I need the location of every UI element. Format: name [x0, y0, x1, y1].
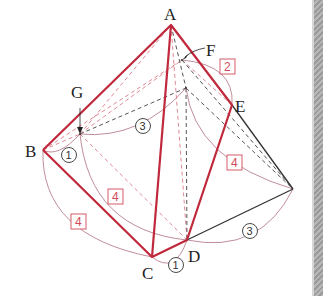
svg-text:4: 4: [231, 156, 238, 170]
circled-number-cd: 1: [169, 258, 184, 273]
circled-number-bg: 1: [62, 148, 77, 163]
boxed-number-g-d: 4: [108, 189, 123, 204]
label-a: A: [164, 5, 177, 24]
svg-text:2: 2: [224, 60, 231, 74]
point-g-dot: [79, 133, 81, 135]
dashed-gray-lines: [80, 25, 293, 240]
label-g: G: [71, 83, 83, 102]
point-f-dot: [181, 59, 183, 61]
svg-text:1: 1: [173, 259, 179, 271]
svg-text:1: 1: [66, 149, 72, 161]
svg-text:4: 4: [112, 190, 119, 204]
boxed-number-right-edge: 4: [227, 155, 242, 170]
boxed-number-b-c: 4: [71, 214, 86, 229]
circled-number-d-right: 3: [243, 224, 258, 239]
arrow-head-f: [182, 54, 188, 60]
svg-text:4: 4: [75, 215, 82, 229]
label-d: D: [188, 247, 200, 266]
label-f: F: [206, 41, 215, 60]
label-c: C: [142, 264, 153, 283]
pyramid-diagram: A B C D E F G 1 3 1 3 2 4 4 4: [0, 0, 323, 296]
hidden-vertex-dot: [185, 87, 187, 89]
label-e: E: [235, 97, 245, 116]
boxed-number-fe: 2: [220, 59, 235, 74]
svg-text:3: 3: [140, 120, 146, 132]
circled-number-g-hidden: 3: [136, 119, 151, 134]
svg-text:3: 3: [247, 225, 253, 237]
black-edges: [187, 105, 293, 240]
label-b: B: [25, 142, 36, 161]
